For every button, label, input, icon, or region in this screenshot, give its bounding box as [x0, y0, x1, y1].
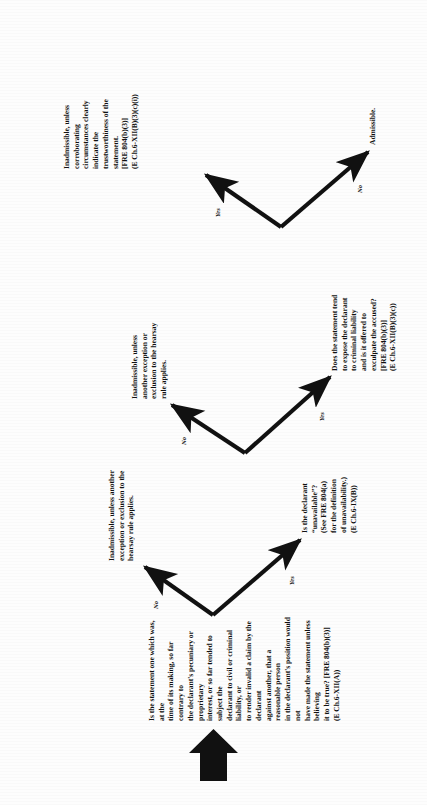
- q1-line-9: have made the statement unless believing: [303, 617, 322, 721]
- edge-q3-yes: [206, 175, 281, 227]
- flowchart-canvas: Is the statement one which was, at the t…: [0, 0, 427, 805]
- q3-line-7: (E Ch.6-XII(B)(3)(c)): [388, 267, 398, 371]
- q1-line-3: the declarant's pecuniary or proprietary: [186, 617, 205, 721]
- edge-label-q1-yes: Yes: [288, 576, 295, 585]
- q1-line-2: time of its making, so far contrary to: [166, 617, 185, 721]
- q2-line-4: for the definition: [329, 451, 339, 533]
- edge-label-q2-yes: Yes: [318, 412, 325, 421]
- q1-line-10: it to be true? [FRE 804(b)(3)]: [322, 617, 332, 721]
- r3yes-line-8: (E Ch.6-XII(B)(3)(c)(i)): [130, 65, 140, 169]
- scanned-page: Is the statement one which was, at the t…: [0, 0, 427, 805]
- q3-line-5: exculpate the accused?: [369, 267, 379, 371]
- r2-line-3: exclusion to the hearsay: [149, 299, 159, 399]
- q2-line-5: of unavailability.): [339, 451, 349, 533]
- r3yes-line-2: corroborating: [72, 65, 82, 169]
- node-q2[interactable]: Is the declarant “unavailable”? (See FRE…: [300, 451, 358, 533]
- r3yes-line-5: trustworthiness of the: [101, 65, 111, 169]
- r3yes-line-6: statement.: [111, 65, 121, 169]
- r2-line-1: Inadmissible, unless: [130, 299, 140, 399]
- q1-line-11: (E Ch.6-XII(A)): [332, 617, 342, 721]
- edge-label-q3-yes: Yes: [214, 208, 221, 217]
- node-result-q3-yes[interactable]: Inadmissible, unless corroborating circu…: [62, 65, 140, 169]
- edge-label-q3-no: No: [356, 185, 363, 193]
- r1-line-1: Inadmissible, unless another: [107, 441, 117, 561]
- q3-line-2: to expose the declarant: [340, 267, 350, 371]
- edge-q3-no: [281, 152, 368, 227]
- edge-q1-yes: [213, 540, 300, 615]
- r3yes-line-7: [FRE 804(b)(3)]: [120, 65, 130, 169]
- q1-line-7: against another, that a reasonable perso…: [264, 617, 283, 721]
- q1-line-4: interest, or so far tended to subject th…: [205, 617, 224, 721]
- q2-line-1: Is the declarant: [300, 451, 310, 533]
- q2-line-3: (See FRE 804(a): [319, 451, 329, 533]
- edge-label-q1-no: No: [152, 601, 159, 609]
- node-q3[interactable]: Does the statement tend to expose the de…: [330, 267, 398, 371]
- r3yes-line-4: indicate the: [91, 65, 101, 169]
- node-result-q1-no[interactable]: Inadmissible, unless another exception o…: [107, 441, 136, 561]
- q2-line-6: (E Ch.6-IX(B)): [349, 451, 359, 533]
- r3yes-line-3: circumstances clearly: [81, 65, 91, 169]
- q1-line-6: to render invalid a claim by the declara…: [244, 617, 263, 721]
- q3-line-4: and is it offered to: [359, 267, 369, 371]
- r3no-line-1: Admissible.: [368, 55, 378, 145]
- r2-line-2: another exception or: [140, 299, 150, 399]
- start-arrow-icon: [189, 729, 238, 781]
- q3-line-1: Does the statement tend: [330, 267, 340, 371]
- edge-q2-no: [172, 405, 245, 453]
- r1-line-3: hearsay rule applies.: [126, 441, 136, 561]
- q2-line-2: “unavailable”?: [310, 451, 320, 533]
- q1-line-5: declarant to civil or criminal liability…: [225, 617, 244, 721]
- r2-line-4: rule applies.: [159, 299, 169, 399]
- q1-line-1: Is the statement one which was, at the: [147, 617, 166, 721]
- r3yes-line-1: Inadmissible, unless: [62, 65, 72, 169]
- q3-line-3: to criminal liability: [349, 267, 359, 371]
- node-q1[interactable]: Is the statement one which was, at the t…: [147, 617, 341, 721]
- edge-label-q2-no: No: [180, 437, 187, 445]
- node-result-q2-no[interactable]: Inadmissible, unless another exception o…: [130, 299, 169, 399]
- q1-line-8: in the declarant's position would not: [283, 617, 302, 721]
- r1-line-2: exception or exclusion to the: [117, 441, 127, 561]
- node-result-q3-no[interactable]: Admissible.: [368, 55, 378, 145]
- q3-line-6: [FRE 804(b)(3)]: [379, 267, 389, 371]
